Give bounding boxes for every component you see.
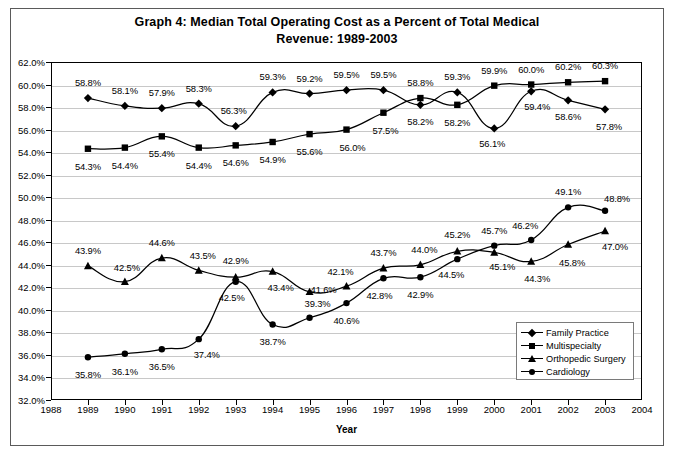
x-axis-tick-mark — [273, 400, 274, 405]
circle-marker-icon — [232, 279, 238, 285]
data-point-label: 59.9% — [481, 64, 507, 75]
y-axis-tick-label: 44.0% — [0, 259, 45, 270]
square-marker-icon — [122, 144, 128, 150]
data-point-label: 41.6% — [311, 283, 337, 294]
diamond-marker-icon — [416, 101, 424, 109]
diamond-marker-icon — [269, 88, 277, 96]
x-axis-tick-label: 1990 — [114, 404, 135, 415]
diamond-marker-icon — [195, 100, 203, 108]
circle-marker-icon — [521, 366, 543, 377]
data-point-label: 58.3% — [186, 82, 212, 93]
legend-item-family-practice[interactable]: Family Practice — [521, 326, 629, 339]
data-point-label: 40.6% — [333, 315, 359, 326]
y-axis-tick-label: 40.0% — [0, 304, 45, 315]
data-point-label: 45.2% — [444, 229, 470, 240]
x-axis-tick-label: 1997 — [373, 404, 394, 415]
x-axis-tick-label: 2001 — [521, 404, 542, 415]
x-axis-tick-mark — [88, 400, 89, 405]
x-axis-tick-label: 1991 — [151, 404, 172, 415]
data-point-label: 60.2% — [555, 61, 581, 72]
x-axis-tick-label: 1998 — [410, 404, 431, 415]
square-marker-icon — [380, 110, 386, 116]
data-point-label: 58.8% — [75, 77, 101, 88]
square-marker-icon — [417, 95, 423, 101]
data-point-label: 42.1% — [327, 266, 353, 277]
data-point-label: 44.5% — [438, 269, 464, 280]
data-point-label: 54.6% — [223, 157, 249, 168]
chart-title-line2: Revenue: 1989-2003 — [40, 31, 634, 48]
data-point-label: 43.9% — [75, 244, 101, 255]
y-axis-tick-label: 50.0% — [0, 192, 45, 203]
legend-label: Orthopedic Surgery — [546, 354, 626, 364]
y-axis-tick-label: 42.0% — [0, 282, 45, 293]
circle-marker-icon — [417, 274, 423, 280]
data-point-label: 55.6% — [297, 146, 323, 157]
legend-item-multispecialty[interactable]: Multispecialty — [521, 339, 629, 352]
y-axis-tick-label: 60.0% — [0, 79, 45, 90]
circle-marker-icon — [565, 204, 571, 210]
y-axis-tick-label: 32.0% — [0, 395, 45, 406]
circle-marker-icon — [602, 208, 608, 214]
y-axis-tick-mark — [46, 400, 51, 401]
data-point-label: 42.8% — [366, 290, 392, 301]
data-point-label: 46.2% — [512, 220, 538, 231]
data-point-label: 56.0% — [339, 141, 365, 152]
data-point-label: 43.5% — [190, 250, 216, 261]
x-axis-tick-mark — [383, 400, 384, 405]
x-axis-tick-label: 1995 — [299, 404, 320, 415]
square-marker-icon — [196, 144, 202, 150]
x-axis-tick-mark — [568, 400, 569, 405]
x-axis-tick-mark — [236, 400, 237, 405]
data-point-label: 60.0% — [518, 63, 544, 74]
x-axis-tick-label: 1999 — [447, 404, 468, 415]
x-axis-tick-label: 1988 — [40, 404, 61, 415]
data-point-label: 57.5% — [372, 124, 398, 135]
data-point-label: 59.2% — [297, 72, 323, 83]
x-axis-tick-label: 2003 — [594, 404, 615, 415]
square-marker-icon — [159, 133, 165, 139]
data-point-label: 43.7% — [370, 247, 396, 258]
diamond-marker-icon — [453, 88, 461, 96]
diamond-marker-icon — [564, 96, 572, 104]
chart-title-line1: Graph 4: Median Total Operating Cost as … — [135, 15, 540, 29]
data-point-label: 57.8% — [596, 121, 622, 132]
square-marker-icon — [306, 131, 312, 137]
x-axis-tick-label: 1994 — [262, 404, 283, 415]
x-axis-tick-label: 1989 — [77, 404, 98, 415]
y-axis-tick-label: 34.0% — [0, 372, 45, 383]
data-point-label: 57.9% — [149, 87, 175, 98]
data-point-label: 58.1% — [112, 84, 138, 95]
y-axis-tick-label: 36.0% — [0, 349, 45, 360]
data-point-label: 54.3% — [75, 160, 101, 171]
data-point-label: 37.4% — [194, 349, 220, 360]
data-point-label: 54.4% — [186, 159, 212, 170]
diamond-marker-icon — [521, 327, 543, 338]
data-point-label: 36.5% — [149, 361, 175, 372]
y-axis-tick-label: 58.0% — [0, 102, 45, 113]
data-point-label: 43.4% — [268, 281, 294, 292]
circle-marker-icon — [122, 351, 128, 357]
chart-legend: Family Practice Multispecialty Orthopedi… — [516, 322, 634, 380]
y-axis-tick-label: 48.0% — [0, 214, 45, 225]
data-point-label: 58.2% — [444, 116, 470, 127]
y-axis-tick-label: 52.0% — [0, 169, 45, 180]
diamond-marker-icon — [121, 102, 129, 110]
data-point-label: 36.1% — [112, 365, 138, 376]
square-marker-icon — [232, 142, 238, 148]
y-axis-tick-label: 56.0% — [0, 124, 45, 135]
data-point-label: 45.1% — [489, 261, 515, 272]
diamond-marker-icon — [527, 87, 535, 95]
data-point-label: 44.0% — [411, 243, 437, 254]
data-point-label: 42.5% — [219, 291, 245, 302]
legend-item-cardiology[interactable]: Cardiology — [521, 365, 629, 378]
legend-item-orthopedic-surgery[interactable]: Orthopedic Surgery — [521, 352, 629, 365]
x-axis-tick-mark — [347, 400, 348, 405]
circle-marker-icon — [159, 346, 165, 352]
data-point-label: 54.4% — [112, 159, 138, 170]
y-axis-tick-label: 62.0% — [0, 57, 45, 68]
data-point-label: 38.7% — [260, 335, 286, 346]
circle-marker-icon — [491, 242, 497, 248]
data-point-label: 54.9% — [260, 153, 286, 164]
x-axis-tick-mark — [125, 400, 126, 405]
circle-marker-icon — [380, 275, 386, 281]
